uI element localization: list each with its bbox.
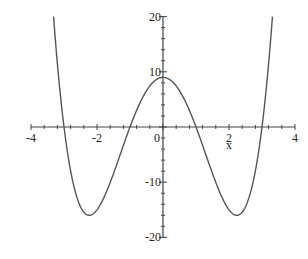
x-tick-label: -2 — [92, 131, 102, 145]
x-tick-label: 4 — [292, 131, 298, 145]
y-tick-label: -20 — [145, 230, 161, 244]
y-tick-label: 20 — [149, 10, 161, 24]
y-tick-label: 10 — [149, 65, 161, 79]
y-tick-label: -10 — [145, 175, 161, 189]
function-plot: -4-2024-20-101020 x — [0, 0, 308, 259]
axis-ticks — [31, 17, 295, 238]
x-axis-label: x — [226, 138, 232, 152]
x-tick-label: -4 — [26, 131, 36, 145]
x-tick-label: 0 — [154, 131, 160, 145]
